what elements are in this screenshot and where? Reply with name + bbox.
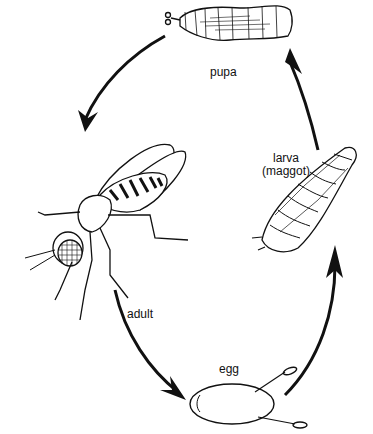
fly-life-cycle-diagram: pupa larva (maggot) adult egg bbox=[0, 0, 373, 434]
egg-illustration bbox=[190, 366, 307, 428]
pupa-illustration bbox=[166, 6, 293, 40]
diagram-artwork bbox=[0, 0, 373, 434]
larva-label: larva (maggot) bbox=[258, 152, 314, 178]
arrow-larva-to-pupa bbox=[285, 48, 318, 150]
adult-fly-illustration bbox=[25, 144, 188, 320]
arrow-pupa-to-adult bbox=[78, 36, 165, 132]
adult-label: adult bbox=[127, 308, 153, 321]
egg-label: egg bbox=[219, 363, 239, 376]
pupa-label: pupa bbox=[210, 66, 237, 79]
larva-label-line2: (maggot) bbox=[258, 165, 314, 178]
